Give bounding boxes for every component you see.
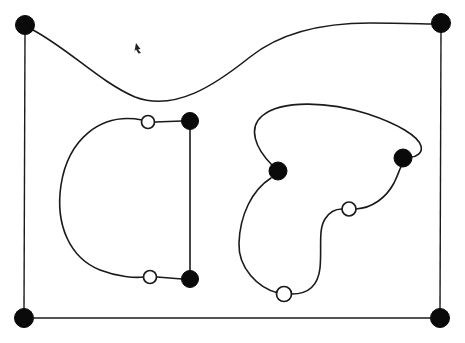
left-frame-segment (24, 34, 25, 309)
vertex-right-left-black (269, 162, 287, 180)
vertex-left-upper-black (182, 113, 199, 130)
vertex-right-lower-white (277, 287, 292, 302)
left-upper-connector (155, 121, 182, 122)
right-s-curve (292, 209, 342, 294)
vertex-left-lower-white (144, 271, 157, 284)
vertex-left-lower-black (182, 271, 199, 288)
vertex-right-right-black (394, 149, 412, 167)
right-component-edges (239, 104, 421, 294)
diagram-canvas (0, 0, 465, 343)
top-sweeping-curve (33, 23, 432, 101)
vertex-corner-top-left (16, 16, 35, 35)
left-lower-connector (157, 277, 182, 279)
mouse-cursor-mark (135, 43, 142, 54)
vertex-corner-top-right (432, 14, 451, 33)
right-right-connector (356, 167, 401, 209)
right-frame-segment (440, 32, 441, 309)
frame-edges (24, 32, 441, 318)
right-left-lower-arc (239, 178, 278, 293)
black-vertices (15, 14, 451, 328)
knot-diagram-figure: Knot diagram with black and white vertic… (0, 0, 465, 343)
vertex-corner-bottom-right (431, 309, 450, 328)
left-open-arc (60, 119, 144, 278)
vertex-right-mid-white (342, 202, 356, 216)
top-curve-group (33, 23, 432, 101)
left-component-edges (60, 119, 190, 279)
mouse-cursor-glyph (135, 43, 142, 54)
vertex-left-upper-white (142, 116, 155, 129)
vertex-corner-bottom-left (15, 309, 34, 328)
